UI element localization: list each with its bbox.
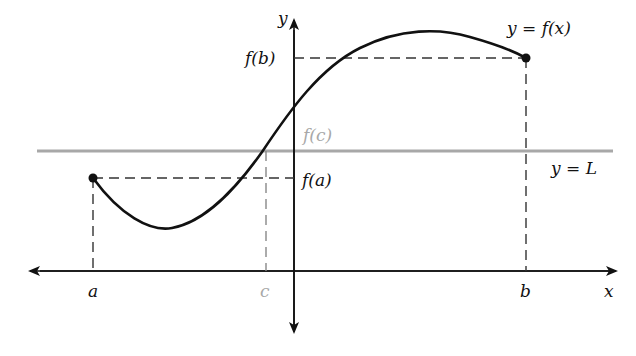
c-label: c — [260, 281, 270, 301]
a-label: a — [88, 281, 98, 301]
b-label: b — [520, 281, 531, 301]
curve-label: y = f(x) — [506, 18, 571, 38]
fa-label: f(a) — [300, 170, 332, 190]
point-b — [522, 54, 531, 63]
point-a — [89, 174, 98, 183]
fb-label: f(b) — [243, 48, 275, 68]
line-L-label: y = L — [550, 158, 597, 178]
x-axis-label: x — [604, 281, 614, 301]
ivt-diagram: y x y = f(x) y = L f(b) f(c) f(a) a c b — [0, 0, 636, 356]
fc-label: f(c) — [301, 125, 332, 145]
y-axis-label: y — [277, 8, 288, 28]
